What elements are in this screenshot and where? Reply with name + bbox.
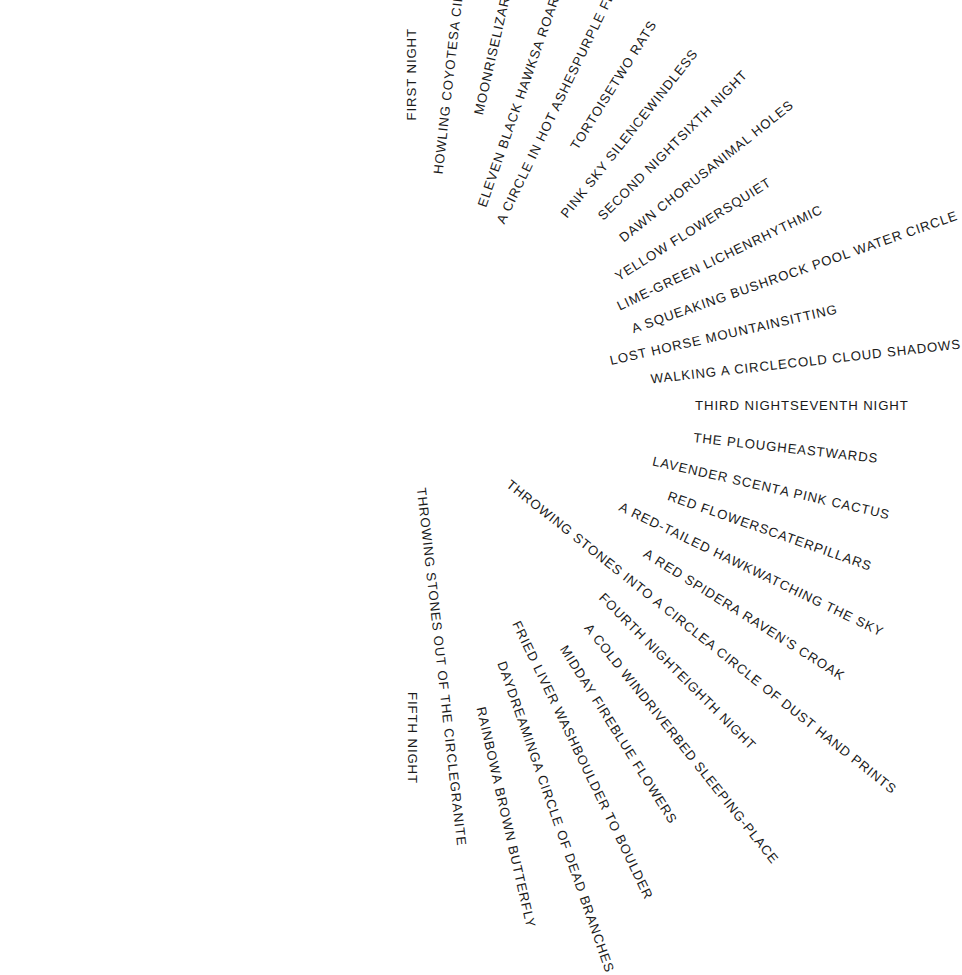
radial-label: THROWING STONES OUT OF THE CIRCLE	[415, 487, 461, 782]
radial-label: TORTOISE	[568, 82, 618, 152]
radial-label: COLD CLOUD SHADOWS	[787, 338, 962, 371]
radial-label: SITTING	[779, 302, 839, 328]
radial-label: EASTWARDS	[787, 442, 879, 465]
radial-label: A CIRCLE IN SNOW	[448, 0, 476, 31]
radial-label: TWO RATS	[608, 18, 660, 89]
radial-label: WINDLESS	[643, 47, 701, 115]
radial-label: SEVENTH NIGHT	[790, 399, 909, 412]
radial-label: A ROARING WIND	[531, 0, 585, 51]
radial-label: WALKING A CIRCLE	[650, 357, 788, 386]
radial-label: A PINK CACTUS	[779, 484, 891, 522]
radial-label: RIVERBED SLEEPING-PLACE	[643, 697, 781, 866]
radial-label: RHYTHMIC	[750, 203, 825, 248]
radial-label: LIZARDS	[490, 0, 517, 39]
radial-label: THE PLOUGH	[693, 431, 789, 455]
radial-label: FIRST NIGHT	[405, 28, 418, 120]
radial-label: MOONRISE	[472, 36, 502, 116]
radial-label: RAINBOW	[474, 705, 502, 776]
radial-label: GRANITE	[448, 781, 468, 847]
radial-label: FIFTH NIGHT	[405, 692, 418, 784]
radial-label: A BROWN BUTTERFLY	[490, 773, 538, 929]
radial-label: THIRD NIGHT	[695, 399, 790, 412]
radial-label: SIXTH NIGHT	[675, 68, 750, 143]
radial-label: HOWLING COYOTES	[432, 30, 461, 175]
radial-label: CATERPILLARS	[767, 525, 874, 573]
radial-label: QUIET	[729, 175, 774, 210]
